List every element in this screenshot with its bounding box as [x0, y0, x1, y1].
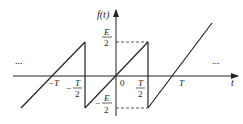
- t-axis-label: t: [231, 77, 234, 88]
- neg-e-half-sign: −: [95, 98, 100, 108]
- f-axis-label: f(t): [97, 9, 110, 21]
- e-half-den: 2: [104, 38, 109, 48]
- neg-e-half-den: 2: [104, 105, 109, 115]
- t-half-den: 2: [138, 89, 143, 99]
- ellipsis-left: ...: [15, 55, 23, 66]
- neg-t-label: −T: [48, 78, 60, 88]
- origin-label: 0: [120, 78, 125, 88]
- t-label: T: [179, 78, 185, 88]
- ellipsis-right: ...: [212, 55, 220, 66]
- neg-t-half-den: 2: [75, 89, 80, 99]
- neg-e-half-num: E: [103, 93, 110, 103]
- neg-t-half-num: T: [75, 78, 81, 88]
- t-half-num: T: [138, 78, 144, 88]
- e-half-num: E: [103, 27, 110, 37]
- sawtooth-diagram: ... ... f(t) t 0 E 2 − E 2 −T − T 2 T 2 …: [0, 0, 243, 124]
- neg-t-half-sign: −: [66, 83, 71, 93]
